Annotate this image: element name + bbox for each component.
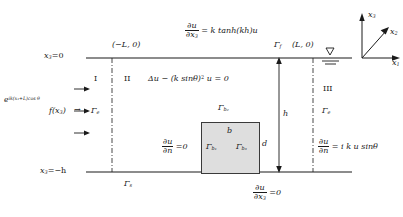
coordinate-axes (362, 17, 396, 58)
seabed-condition: ∂u ∂x3 =0 (253, 184, 281, 202)
x3-top-label: x3=0 (44, 52, 63, 60)
gamma-f-label: Γf (274, 41, 281, 49)
fs-rhs: = k tanh(kh)u (201, 26, 257, 35)
obstacle-height-label: d (262, 140, 267, 148)
free-surface-condition: ∂u ∂x3 = k tanh(kh)u (185, 22, 258, 40)
region-II-label: II (124, 75, 130, 83)
x2-axis-label: x2 (390, 28, 398, 36)
forcing-arrow: → (74, 106, 81, 114)
forcing-function-label: f(x3) (49, 107, 66, 115)
x3-bottom-label: x3=−h (40, 167, 66, 175)
fs-num: ∂u (185, 22, 199, 30)
gamma-b2-label: Γb₂ (218, 104, 229, 112)
radiation-condition: ∂u ∂n = i k u sinθ (318, 138, 378, 155)
gamma-b3-label: Γb₃ (236, 143, 247, 151)
incident-wave-expression: eik(x₁+L)cos θ (4, 96, 40, 104)
gamma-e-right-label: Γe (322, 107, 331, 115)
water-level-symbol (322, 48, 339, 64)
depth-label: h (283, 110, 288, 118)
obstacle-neumann-condition: ∂u ∂n =0 (162, 138, 188, 155)
gamma-e-left-label: Γe (91, 107, 100, 115)
x2-axis-arrowhead (381, 27, 389, 34)
region-I-label: I (94, 75, 97, 83)
x1-axis-label: x1 (392, 59, 400, 67)
left-corner-coordinate: (−L, 0) (112, 41, 140, 49)
wave-scattering-diagram: x3=0 (−L, 0) ∂u ∂x3 = k tanh(kh)u Γf (L,… (0, 0, 403, 217)
x3-axis-label: x3 (368, 11, 376, 19)
governing-equation: Δu − (k sinθ)2 u = 0 (148, 75, 229, 83)
fs-den: ∂x (186, 30, 195, 39)
region-III-label: III (323, 85, 332, 93)
gamma-b1-label: Γb₁ (206, 143, 217, 151)
obstacle-width-label: b (227, 127, 232, 135)
right-corner-coordinate: (L, 0) (292, 41, 314, 49)
x3-axis-arrowhead (359, 13, 364, 21)
gamma-s-label: Γs (124, 180, 132, 188)
